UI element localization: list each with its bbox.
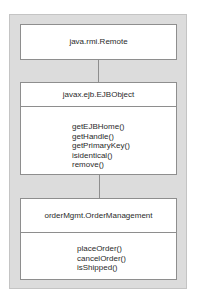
method-cancelorder: cancelOrder()	[77, 254, 126, 264]
method-isshipped: isShipped()	[77, 263, 126, 273]
method-getprimarykey: getPrimaryKey()	[72, 141, 130, 151]
class-divider	[21, 232, 176, 233]
class-name-ordermanagement: orderMgmt.OrderManagement	[21, 199, 176, 232]
inheritance-line-ordermanagement-ejbobject	[99, 175, 100, 198]
class-box-ejbobject: javax.ejb.EJBObject getEJBHome() getHand…	[20, 82, 177, 175]
class-divider	[21, 106, 176, 107]
class-box-ordermanagement: orderMgmt.OrderManagement placeOrder() c…	[20, 198, 177, 280]
method-gethandle: getHandle()	[72, 132, 130, 142]
method-placeorder: placeOrder()	[77, 244, 126, 254]
inheritance-line-ejbobject-remote	[98, 60, 99, 82]
method-list-ordermanagement: placeOrder() cancelOrder() isShipped()	[77, 244, 126, 273]
class-name-ejbobject: javax.ejb.EJBObject	[21, 83, 176, 106]
method-remove: remove()	[72, 160, 130, 170]
method-getejbhome: getEJBHome()	[72, 122, 130, 132]
method-isidentical: isidentical()	[72, 151, 130, 161]
method-list-ejbobject: getEJBHome() getHandle() getPrimaryKey()…	[72, 122, 130, 170]
class-box-remote: java.rmi.Remote	[20, 24, 177, 60]
class-name-remote: java.rmi.Remote	[21, 25, 176, 47]
